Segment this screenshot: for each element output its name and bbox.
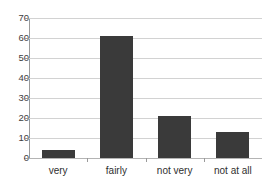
y-axis-tick-group: 010203040506070 — [0, 18, 29, 159]
x-axis-tick-mark — [87, 158, 88, 162]
x-axis-category-label: very — [29, 166, 87, 176]
chart-title — [8, 0, 208, 3]
x-axis-category-label: not at all — [204, 166, 262, 176]
x-axis-tick-mark — [146, 158, 147, 162]
x-axis-category-label: fairly — [87, 166, 145, 176]
gridline — [29, 118, 262, 119]
gridline — [29, 98, 262, 99]
plot-area — [29, 18, 262, 158]
bar — [42, 150, 75, 158]
bar-chart-figure: 010203040506070 veryfairlynot verynot at… — [0, 0, 269, 190]
bar — [100, 36, 133, 158]
gridline — [29, 18, 262, 19]
gridline — [29, 78, 262, 79]
x-axis-category-label: not very — [146, 166, 204, 176]
x-axis-tick-mark — [204, 158, 205, 162]
bar — [216, 132, 249, 158]
bar — [158, 116, 191, 158]
gridline — [29, 38, 262, 39]
gridline — [29, 58, 262, 59]
